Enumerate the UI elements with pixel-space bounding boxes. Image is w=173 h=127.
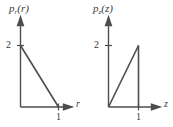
- x-axis-label-z: z: [164, 99, 168, 109]
- y-tick-label-2-r: 2: [6, 40, 11, 50]
- x-axis-r: [21, 104, 73, 110]
- plot-p-r-title: pr(r): [9, 3, 29, 16]
- x-tick-label-1-r: 1: [56, 112, 61, 122]
- plot-p-z: pz(z) 2 1 z: [86, 0, 173, 127]
- plot-p-z-title-arg: (z): [101, 2, 113, 14]
- y-tick-label-2-z: 2: [94, 40, 99, 50]
- plot-p-r-title-arg: (r): [17, 2, 29, 14]
- data-line-p-r: [21, 46, 59, 108]
- y-axis-z: [106, 17, 112, 107]
- plot-p-r: pr(r) 2 1 r: [0, 0, 87, 127]
- x-axis-label-r: r: [76, 99, 80, 109]
- data-line-p-z: [109, 46, 139, 108]
- x-tick-label-1-z: 1: [136, 112, 141, 122]
- y-axis-r: [18, 17, 24, 107]
- plot-p-z-title: pz(z): [93, 3, 113, 16]
- plot-p-z-graphic: [86, 0, 173, 127]
- plot-p-r-graphic: [0, 0, 87, 127]
- figure-container: pr(r) 2 1 r pz: [0, 0, 173, 127]
- x-axis-z: [109, 104, 161, 110]
